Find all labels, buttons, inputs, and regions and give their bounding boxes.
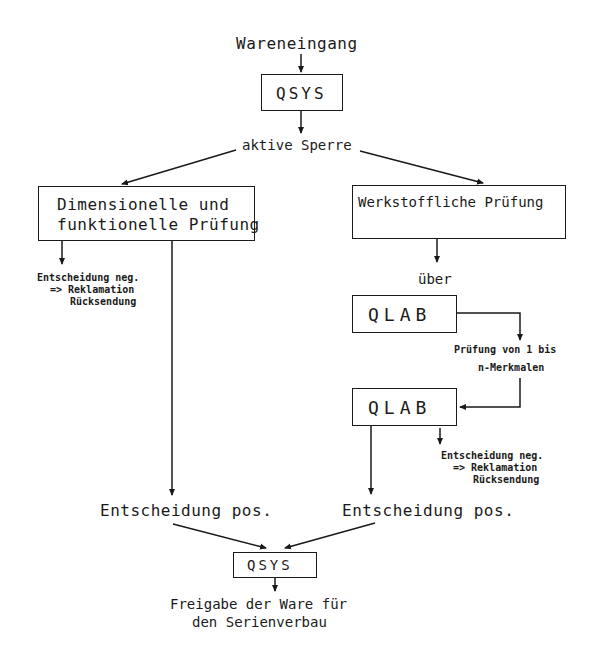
left-check-label-line2: funktionelle Prüfung bbox=[57, 217, 260, 233]
left-neg-line3: Rücksendung bbox=[70, 296, 136, 308]
right-neg-line1: Entscheidung neg. bbox=[441, 450, 543, 462]
arrow-left-pos-to-qsys bbox=[173, 524, 266, 548]
qlab-1-label: QLAB bbox=[368, 304, 431, 325]
end-label-line2: den Serienverbau bbox=[192, 615, 327, 629]
qlab-note-line2: n-Merkmalen bbox=[478, 362, 544, 374]
left-check-label-line1: Dimensionelle und bbox=[57, 197, 229, 213]
arrow-lock-to-left-check bbox=[122, 150, 236, 184]
left-pos-label: Entscheidung pos. bbox=[100, 503, 272, 519]
right-check-label: Werkstoffliche Prüfung bbox=[358, 195, 543, 209]
start-label: Wareneingang bbox=[236, 36, 358, 52]
arrow-right-pos-to-qsys bbox=[285, 523, 375, 548]
right-pos-label: Entscheidung pos. bbox=[342, 503, 514, 519]
qlab-note-line1: Prüfung von 1 bis bbox=[454, 344, 556, 356]
end-label-line1: Freigabe der Ware für bbox=[170, 597, 347, 611]
arrow-note-to-qlab2 bbox=[460, 378, 520, 407]
right-neg-line2: => Reklamation bbox=[453, 462, 537, 474]
arrow-qlab1-to-note bbox=[457, 313, 520, 340]
arrow-lock-to-right-check bbox=[360, 151, 483, 183]
right-neg-line3: Rücksendung bbox=[473, 474, 539, 486]
left-neg-line2: => Reklamation bbox=[50, 284, 134, 296]
lock-label: aktive Sperre bbox=[242, 138, 352, 152]
qsys-bottom-label: QSYS bbox=[247, 557, 293, 573]
qsys-top-label: QSYS bbox=[276, 84, 327, 103]
qlab-2-label: QLAB bbox=[368, 397, 431, 418]
via-label: über bbox=[418, 272, 452, 286]
left-neg-line1: Entscheidung neg. bbox=[37, 272, 139, 284]
